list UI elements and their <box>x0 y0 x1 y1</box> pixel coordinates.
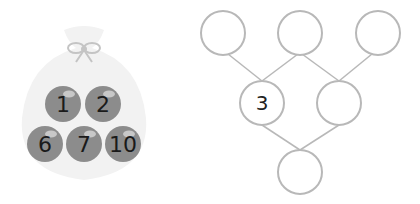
tree-node-top-middle <box>278 11 322 55</box>
svg-text:3: 3 <box>256 91 269 115</box>
tree-node-top-right <box>356 11 400 55</box>
tree-node-top-left <box>201 11 245 55</box>
svg-text:2: 2 <box>96 92 110 117</box>
number-ball: 10 <box>105 126 141 162</box>
puzzle-figure: 126710 3 <box>0 0 420 204</box>
svg-text:6: 6 <box>38 132 52 157</box>
svg-text:7: 7 <box>77 132 91 157</box>
tree-node-middle-right <box>317 81 361 125</box>
svg-text:10: 10 <box>109 132 137 157</box>
number-ball: 7 <box>66 126 102 162</box>
svg-text:1: 1 <box>56 92 70 117</box>
tree-nodes: 3 <box>201 11 400 194</box>
number-ball: 6 <box>27 126 63 162</box>
tree-node-bottom <box>278 150 322 194</box>
number-ball: 2 <box>85 86 121 122</box>
tree-node-middle-left: 3 <box>240 81 284 125</box>
number-ball: 1 <box>45 86 81 122</box>
